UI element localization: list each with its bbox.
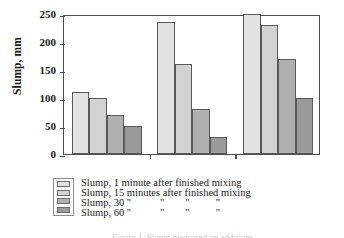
plot-inner: 050100150200250 <box>64 16 319 154</box>
bar-group <box>64 16 150 154</box>
bar <box>72 92 90 154</box>
legend-swatch-3 <box>57 198 70 204</box>
bar <box>192 109 210 154</box>
bar-group <box>150 16 236 154</box>
bar <box>261 25 279 154</box>
legend-label-4: Slump, 60 " " " " <box>81 208 251 218</box>
bar <box>107 115 125 154</box>
legend-swatch-2 <box>57 190 70 196</box>
bar <box>210 137 228 154</box>
legend-swatch-4 <box>57 207 70 213</box>
y-tick-label: 200 <box>40 36 57 48</box>
legend-swatch-1 <box>57 181 70 187</box>
y-tick-mark <box>60 156 65 157</box>
y-tick-label: 150 <box>40 64 57 76</box>
y-tick-label: 50 <box>45 120 56 132</box>
bar <box>296 98 314 154</box>
bar <box>175 64 193 154</box>
y-axis-title: Slump, mm <box>10 18 24 114</box>
bar <box>278 59 296 154</box>
y-tick-label: 0 <box>51 148 57 160</box>
bar <box>243 14 261 154</box>
bar <box>157 22 175 154</box>
x-group-tick <box>235 154 236 159</box>
bar <box>89 98 107 154</box>
caption-fragment: Figure 1. Slump measured on additions <box>112 233 340 238</box>
bar <box>124 126 142 154</box>
chart-figure: Slump, mm 050100150200250 Slump, 1 minut… <box>0 0 344 238</box>
legend-label-column: Slump, 1 minute after finished mixing Sl… <box>81 178 251 218</box>
chart-legend: Slump, 1 minute after finished mixing Sl… <box>53 178 251 218</box>
bar-group <box>235 16 321 154</box>
x-group-tick <box>150 154 151 159</box>
plot-area: 050100150200250 <box>63 15 320 155</box>
y-tick-label: 100 <box>40 92 57 104</box>
y-tick-label: 250 <box>40 8 57 20</box>
legend-swatch-column <box>53 178 74 216</box>
